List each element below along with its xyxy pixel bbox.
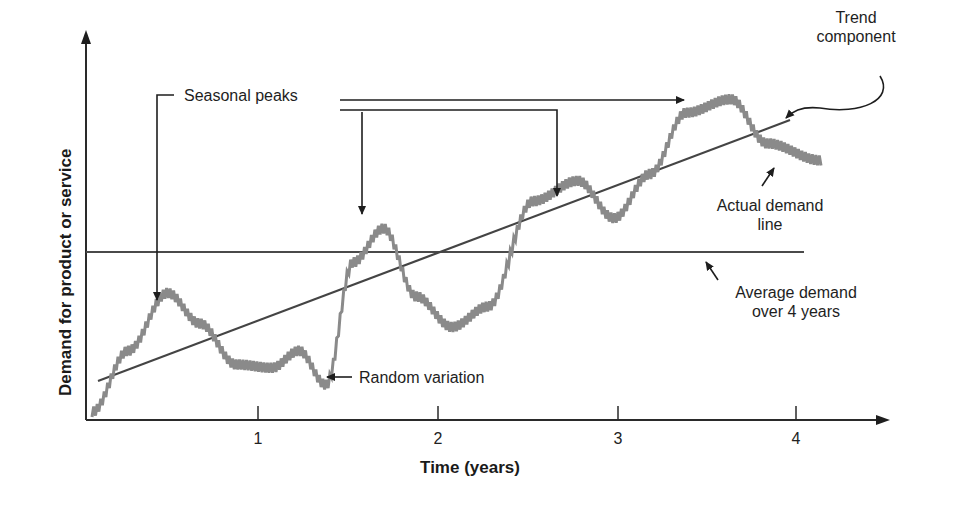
trend-component-label: Trend component — [806, 8, 906, 46]
trend-label-line1: Trend — [806, 8, 906, 27]
seasonal-peaks-label: Seasonal peaks — [184, 86, 298, 105]
y-axis-title: Demand for product or service — [56, 148, 76, 396]
trend-line — [98, 120, 790, 381]
actual-demand-pointer — [762, 168, 774, 186]
actual-label-line1: Actual demand — [700, 196, 840, 215]
x-axis-title: Time (years) — [420, 458, 520, 478]
trend-pointer-arrow — [786, 76, 884, 118]
x-tick-label-3: 3 — [614, 430, 623, 448]
y-axis-arrow-icon — [81, 30, 91, 44]
x-axis — [86, 406, 890, 425]
y-axis — [81, 30, 91, 420]
average-label-line2: over 4 years — [716, 302, 876, 321]
x-tick-label-2: 2 — [434, 430, 443, 448]
x-tick-label-1: 1 — [254, 430, 263, 448]
average-demand-pointer — [706, 262, 718, 280]
x-tick-label-4: 4 — [792, 430, 801, 448]
seasonal-peaks-connectors — [157, 95, 684, 300]
actual-label-line2: line — [700, 215, 840, 234]
actual-demand-label: Actual demand line — [700, 196, 840, 234]
average-label-line1: Average demand — [716, 283, 876, 302]
random-variation-label: Random variation — [359, 368, 484, 387]
average-demand-label: Average demand over 4 years — [716, 283, 876, 321]
trend-label-line2: component — [806, 27, 906, 46]
chart-canvas — [0, 0, 958, 521]
x-axis-arrow-icon — [876, 415, 890, 425]
